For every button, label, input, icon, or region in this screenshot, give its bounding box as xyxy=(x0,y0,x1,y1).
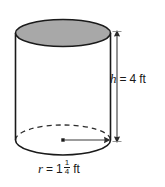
cylinder-body xyxy=(16,33,111,155)
base-center-point xyxy=(61,138,64,141)
radius-variable: r xyxy=(38,162,43,175)
cylinder-diagram xyxy=(0,0,165,187)
radius-unit: ft xyxy=(73,163,80,175)
height-value: 4 xyxy=(130,73,137,85)
radius-fraction-numerator: 1 xyxy=(64,159,70,167)
height-equals-sign: = xyxy=(120,73,127,85)
height-unit: ft xyxy=(139,73,146,85)
cylinder-top-face xyxy=(16,20,111,47)
radius-fraction: 1 4 xyxy=(64,159,70,176)
radius-fraction-denominator: 4 xyxy=(64,167,70,176)
height-variable: h xyxy=(110,72,117,85)
radius-mixed-number: 1 1 4 xyxy=(56,160,70,177)
radius-equals-sign: = xyxy=(46,163,53,175)
radius-whole-number: 1 xyxy=(56,163,63,175)
radius-label: r = 1 1 4 ft xyxy=(38,160,80,177)
height-label: h = 4 ft xyxy=(110,72,146,85)
height-dimension-arrow xyxy=(113,30,122,143)
